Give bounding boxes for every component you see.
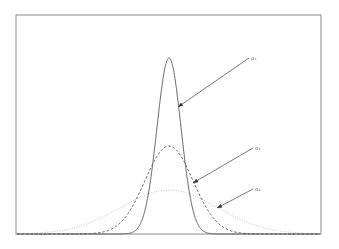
curve-sigma2-dashed	[17, 146, 320, 234]
label-sigma1: σ₁	[251, 55, 256, 61]
arrowhead-icon	[217, 204, 222, 208]
gaussian-chart: σ₁ σ₂ σ₃	[0, 0, 339, 249]
annotation-sigma2: σ₂	[193, 145, 260, 183]
plot-frame	[16, 15, 321, 234]
label-sigma3: σ₃	[255, 186, 260, 192]
annotation-sigma1: σ₁	[178, 55, 256, 107]
label-sigma2: σ₂	[255, 145, 260, 151]
annotations: σ₁ σ₂ σ₃	[178, 55, 260, 208]
curve-sigma3-dotted	[17, 190, 320, 234]
arrow-sigma2	[193, 148, 253, 183]
arrowhead-icon	[193, 179, 198, 183]
arrow-sigma1	[178, 58, 249, 107]
arrow-sigma3	[217, 189, 253, 208]
annotation-sigma3: σ₃	[217, 186, 260, 208]
